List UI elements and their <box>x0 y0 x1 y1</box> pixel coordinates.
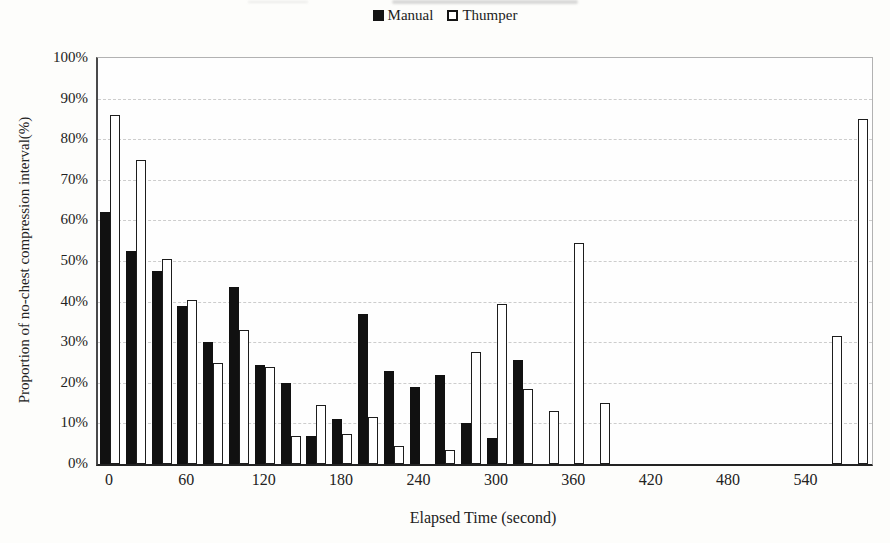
bar-thumper-180s <box>342 434 352 464</box>
x-axis-title: Elapsed Time (second) <box>96 509 870 527</box>
x-tick-label-540: 540 <box>776 472 836 488</box>
manual-swatch-icon <box>373 10 384 21</box>
legend-item-manual: Manual <box>373 7 434 24</box>
bar-manual-80s <box>203 342 213 464</box>
bar-thumper-0s <box>110 115 120 464</box>
bar-manual-120s <box>255 365 265 464</box>
legend: Manual Thumper <box>0 7 890 24</box>
x-tick-label-0: 0 <box>79 472 139 488</box>
bar-manual-300s <box>487 438 497 464</box>
bar-manual-20s <box>126 251 136 464</box>
gridline-80 <box>98 139 872 140</box>
legend-label-manual: Manual <box>388 7 434 24</box>
scan-artifact <box>392 0 578 4</box>
y-tick-label-90: 90% <box>38 91 88 106</box>
bar-thumper-40s <box>162 259 172 464</box>
gridline-50 <box>98 261 872 262</box>
y-axis-tick-labels: 0%10%20%30%40%50%60%70%80%90%100% <box>38 0 88 543</box>
x-tick-label-480: 480 <box>698 472 758 488</box>
bar-thumper-340s <box>549 411 559 464</box>
bar-thumper-380s <box>600 403 610 464</box>
x-tick-label-300: 300 <box>466 472 526 488</box>
bar-thumper-360s <box>574 243 584 464</box>
legend-label-thumper: Thumper <box>462 7 517 24</box>
x-tick-label-180: 180 <box>311 472 371 488</box>
bar-manual-240s <box>410 387 420 464</box>
bar-manual-260s <box>435 375 445 464</box>
bar-thumper-60s <box>187 300 197 464</box>
thumper-swatch-icon <box>447 10 458 21</box>
y-tick-label-0: 0% <box>38 456 88 471</box>
bar-manual-200s <box>358 314 368 464</box>
y-tick-label-40: 40% <box>38 294 88 309</box>
bar-manual-220s <box>384 371 394 464</box>
bar-thumper-260s <box>445 450 455 464</box>
bar-thumper-140s <box>291 436 301 464</box>
bar-thumper-200s <box>368 417 378 464</box>
x-tick-label-360: 360 <box>543 472 603 488</box>
bar-manual-140s <box>281 383 291 464</box>
scanned-bar-chart: Manual Thumper Proportion of no-chest co… <box>0 0 890 543</box>
gridline-90 <box>98 99 872 100</box>
x-tick-label-420: 420 <box>621 472 681 488</box>
gridline-30 <box>98 342 872 343</box>
x-tick-label-240: 240 <box>389 472 449 488</box>
y-tick-label-70: 70% <box>38 172 88 187</box>
y-tick-label-20: 20% <box>38 375 88 390</box>
x-tick-label-120: 120 <box>234 472 294 488</box>
scan-artifact <box>248 1 308 3</box>
bar-manual-60s <box>177 306 187 464</box>
bar-manual-100s <box>229 287 239 464</box>
y-tick-label-100: 100% <box>38 50 88 65</box>
bar-manual-160s <box>306 436 316 464</box>
bar-thumper-20s <box>136 160 146 465</box>
y-tick-label-50: 50% <box>38 253 88 268</box>
plot-area <box>96 57 873 466</box>
bar-manual-180s <box>332 419 342 464</box>
bar-thumper-220s <box>394 446 404 464</box>
bar-manual-40s <box>152 271 162 464</box>
bar-manual-0s <box>100 212 110 464</box>
y-tick-label-10: 10% <box>38 415 88 430</box>
gridline-40 <box>98 302 872 303</box>
x-tick-label-60: 60 <box>156 472 216 488</box>
bar-thumper-80s <box>213 363 223 465</box>
bar-thumper-580s <box>858 119 868 464</box>
bar-thumper-320s <box>523 389 533 464</box>
bar-manual-280s <box>461 423 471 464</box>
bar-thumper-280s <box>471 352 481 464</box>
y-tick-label-80: 80% <box>38 131 88 146</box>
gridline-70 <box>98 180 872 181</box>
bar-thumper-560s <box>832 336 842 464</box>
gridline-60 <box>98 220 872 221</box>
x-axis-tick-labels: 060120180240300360420480540 <box>96 472 870 494</box>
legend-item-thumper: Thumper <box>447 7 517 24</box>
bar-thumper-160s <box>316 405 326 464</box>
y-axis-title: Proportion of no-chest compression inter… <box>16 117 33 404</box>
bar-manual-320s <box>513 360 523 464</box>
bar-thumper-120s <box>265 367 275 464</box>
bar-thumper-300s <box>497 304 507 464</box>
y-tick-label-30: 30% <box>38 334 88 349</box>
bar-thumper-100s <box>239 330 249 464</box>
y-tick-label-60: 60% <box>38 212 88 227</box>
